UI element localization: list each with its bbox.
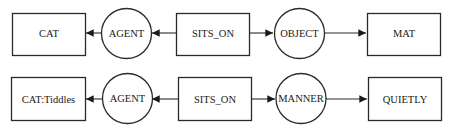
concept-node-sits-on[interactable]: SITS_ON <box>179 78 252 121</box>
concept-node-quietly[interactable]: QUIETLY <box>369 78 442 121</box>
node-label: QUIETLY <box>383 94 428 105</box>
node-label: OBJECT <box>280 28 319 39</box>
relation-node-object[interactable]: OBJECT <box>275 9 325 59</box>
node-label: CAT <box>39 28 59 39</box>
node-label: AGENT <box>110 93 146 104</box>
node-label: AGENT <box>109 28 145 39</box>
relation-node-agent[interactable]: AGENT <box>103 74 153 124</box>
node-label: SITS_ON <box>194 94 236 105</box>
node-label: MAT <box>393 28 416 39</box>
relation-node-manner[interactable]: MANNER <box>276 74 326 124</box>
row-2: CAT:Tiddles AGENT SITS_ON MANNER QUIETLY <box>12 74 442 124</box>
row-1: CAT AGENT SITS_ON OBJECT MAT <box>13 9 441 59</box>
concept-node-cat[interactable]: CAT <box>13 14 86 56</box>
conceptual-graph-diagram: CAT AGENT SITS_ON OBJECT MAT CAT:Tiddles <box>0 0 452 128</box>
node-label: SITS_ON <box>192 28 234 39</box>
node-label: CAT:Tiddles <box>22 94 75 105</box>
node-label: MANNER <box>278 93 324 104</box>
concept-node-mat[interactable]: MAT <box>368 14 441 56</box>
concept-node-sits-on[interactable]: SITS_ON <box>177 14 250 56</box>
concept-node-cat-tiddles[interactable]: CAT:Tiddles <box>12 78 86 121</box>
relation-node-agent[interactable]: AGENT <box>102 9 152 59</box>
